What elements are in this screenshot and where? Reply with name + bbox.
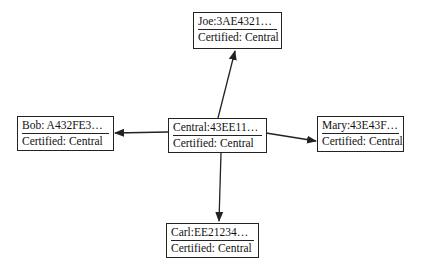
node-central[interactable]: Central:43EE11… Certified: Central [168,118,267,153]
node-central-certified: Certified: Central [173,137,262,150]
arrow-central-to-carl [219,153,221,221]
node-mary-title: Mary:43E43F… [322,119,399,134]
node-bob-title: Bob: A432FE3… [22,119,109,134]
node-joe[interactable]: Joe:3AE4321… Certified: Central [193,12,282,49]
node-joe-title: Joe:3AE4321… [198,15,277,30]
node-bob[interactable]: Bob: A432FE3… Certified: Central [17,116,114,151]
arrow-central-to-joe [218,51,235,118]
node-carl-certified: Certified: Central [171,242,254,255]
node-bob-certified: Certified: Central [22,135,109,148]
arrow-central-to-mary [266,133,316,141]
node-mary[interactable]: Mary:43E43F… Certified: Central [317,116,404,152]
node-central-title: Central:43EE11… [173,121,262,136]
node-carl[interactable]: Carl:EE21234… Certified: Central [166,223,259,258]
node-mary-certified: Certified: Central [322,135,399,148]
node-carl-title: Carl:EE21234… [171,226,254,241]
node-joe-certified: Certified: Central [198,31,277,44]
certificate-diagram: Joe:3AE4321… Certified: Central Bob: A43… [0,0,431,271]
arrow-central-to-bob [115,132,168,133]
